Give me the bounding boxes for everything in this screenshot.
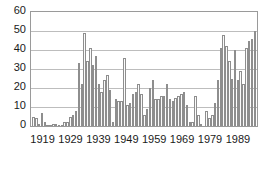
x-tick-label: 1959 [142, 133, 166, 146]
x-tick-label: 1979 [198, 133, 222, 146]
x-tick-label: 1919 [30, 133, 54, 146]
bar [254, 31, 257, 126]
x-tick-label: 1939 [86, 133, 110, 146]
bar [200, 124, 203, 126]
y-tick-label: 0 [20, 119, 26, 130]
x-tick-label: 1929 [58, 133, 82, 146]
plot-area [30, 11, 258, 127]
bar [109, 90, 112, 126]
y-tick-label: 20 [14, 81, 26, 92]
y-axis-tick-labels: 0102030405060 [0, 0, 28, 135]
x-axis-tick-labels: 19191929193919491959196919791989 [30, 133, 258, 153]
bar-chart-figure: 0102030405060 19191929193919491959196919… [0, 0, 266, 171]
page-bottom-edge [6, 160, 256, 166]
y-tick-label: 30 [14, 62, 26, 73]
y-tick-label: 40 [14, 43, 26, 54]
y-tick-label: 10 [14, 100, 26, 111]
x-tick-label: 1989 [226, 133, 250, 146]
x-tick-label: 1969 [170, 133, 194, 146]
y-tick-label: 60 [14, 5, 26, 16]
bar-series [31, 12, 257, 126]
y-tick-label: 50 [14, 24, 26, 35]
x-tick-label: 1949 [114, 133, 138, 146]
